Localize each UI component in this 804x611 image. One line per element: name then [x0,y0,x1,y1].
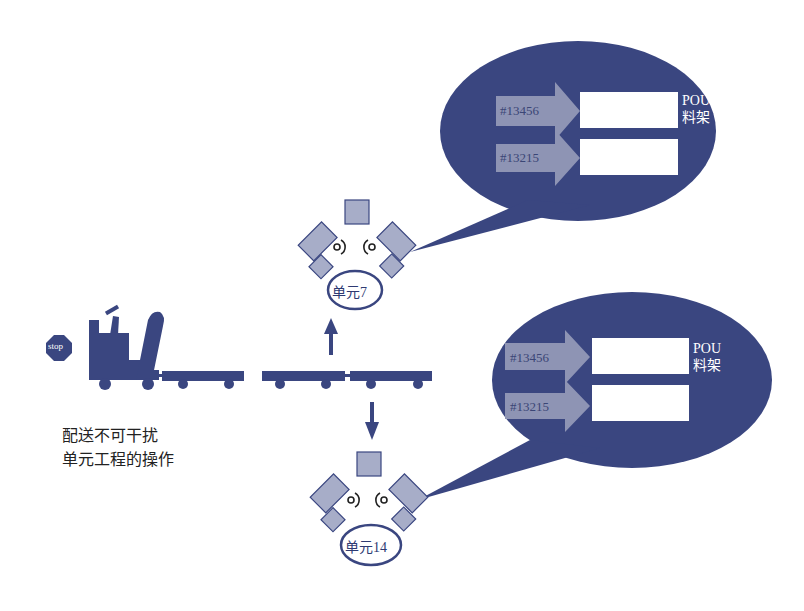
tugger-truck-icon [89,305,164,390]
cell-7-label: 单元7 [332,281,367,301]
cart-icon [158,371,244,389]
speech-bubble-top [410,41,716,252]
rack-label: POU 料架 [693,340,721,374]
part-number-2: #13215 [500,150,539,166]
rack-label-line-1: POU [693,340,721,357]
arrow-up-icon [324,318,338,355]
speech-bubble-bottom [418,292,772,500]
arrow-down-icon [365,402,379,440]
cart-icon [262,371,345,389]
operator-icon [348,493,387,507]
caption-line-1: 配送不可干扰 [62,424,158,448]
cell-14-label: 单元14 [345,536,387,556]
pou-rack-slot [592,338,689,374]
caption-line-2: 单元工程的操作 [62,448,174,472]
pou-rack-slot [580,92,678,128]
stop-sign-label: stop [48,341,63,351]
cell-14-layout [310,452,428,532]
cell-7-layout [298,200,416,279]
rack-label-line-2: 料架 [693,357,721,374]
part-number-1: #13456 [510,350,549,366]
pou-rack-slot [592,385,689,421]
part-number-2: #13215 [510,399,549,415]
rack-label-line-2: 料架 [682,109,710,126]
operator-icon [334,240,375,254]
pou-rack-slot [580,139,678,175]
cart-icon [344,371,432,389]
rack-label: POU 料架 [682,92,710,126]
part-number-1: #13456 [500,103,539,119]
rack-label-line-1: POU [682,92,710,109]
